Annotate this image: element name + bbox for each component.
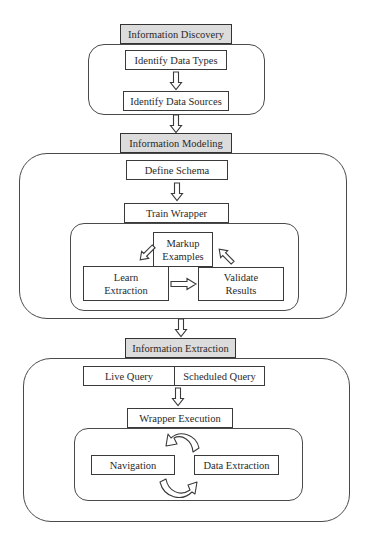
stage-header-discovery: Information Discovery: [120, 24, 232, 44]
stage-header-extraction: Information Extraction: [125, 338, 236, 358]
step-validate-results: Validate Results: [198, 267, 284, 301]
arrow-down-icon: [171, 115, 182, 133]
step-define-schema: Define Schema: [126, 160, 228, 180]
step-identify-data-sources: Identify Data Sources: [123, 91, 229, 111]
step-data-extraction: Data Extraction: [194, 455, 279, 475]
step-markup-examples: Markup Examples: [153, 232, 213, 267]
step-navigation: Navigation: [91, 455, 175, 475]
query-live: Live Query: [83, 366, 175, 386]
markup-label-line2: Examples: [162, 250, 203, 263]
step-train-wrapper: Train Wrapper: [124, 203, 229, 223]
learn-label-line1: Learn: [114, 271, 138, 284]
learn-label-line2: Extraction: [104, 284, 148, 297]
validate-label-line1: Validate: [224, 271, 258, 284]
stage-header-modeling: Information Modeling: [120, 133, 232, 153]
markup-label-line1: Markup: [166, 237, 199, 250]
query-scheduled: Scheduled Query: [174, 366, 265, 386]
arrow-down-icon: [176, 319, 187, 337]
validate-label-line2: Results: [226, 284, 257, 297]
step-learn-extraction: Learn Extraction: [83, 266, 169, 301]
step-identify-data-types: Identify Data Types: [125, 50, 227, 70]
step-wrapper-execution: Wrapper Execution: [127, 408, 233, 428]
